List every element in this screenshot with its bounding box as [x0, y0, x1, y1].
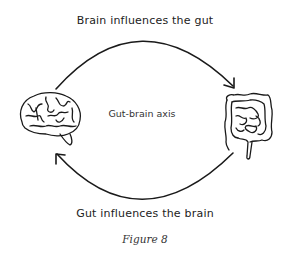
gut-to-brain-label: Gut influences the brain [0, 207, 284, 220]
intestines-icon [225, 93, 272, 159]
brain-icon [21, 93, 81, 145]
center-label: Gut-brain axis [92, 108, 192, 119]
brain-to-gut-label: Brain influences the gut [0, 14, 284, 27]
figure-caption: Figure 8 [0, 233, 284, 245]
arrow-gut-to-brain [56, 153, 233, 199]
arrow-brain-to-gut [56, 41, 234, 89]
